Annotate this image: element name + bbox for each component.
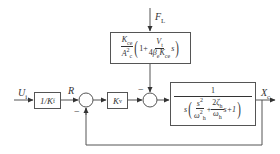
feedback-gain-block: 1/Kf	[34, 92, 61, 109]
valve-gain-block: Kv	[107, 92, 128, 109]
feedback-gain-sub: f	[53, 98, 55, 104]
summing-junction-2	[143, 93, 157, 107]
diagram-wires	[0, 0, 280, 154]
plant-denominator: s ( s2 ω2h + 2ζh ωh s+1 )	[184, 97, 242, 122]
reference-label: R	[68, 86, 74, 96]
inner-fraction: Vt 4βeKce	[148, 38, 171, 59]
sum1-minus-sign: −	[74, 107, 80, 117]
valve-gain-sub: v	[119, 98, 122, 104]
disturbance-tf-block: Kce A2c ( 1+ Vt 4βeKce s )	[110, 32, 191, 64]
feedback-gain-text: 1/K	[40, 96, 53, 106]
output-label: Xc	[261, 88, 270, 101]
sum2-minus-sign: −	[138, 85, 144, 95]
disturbance-label: FL	[155, 12, 165, 25]
plant-tf-block: 1 s ( s2 ω2h + 2ζh ωh s+1 )	[170, 82, 256, 126]
input-label: Ui	[18, 88, 27, 101]
plant-numerator: 1	[174, 86, 252, 97]
summing-junction-1	[79, 93, 93, 107]
coef-fraction: Kce A2c	[121, 36, 134, 59]
